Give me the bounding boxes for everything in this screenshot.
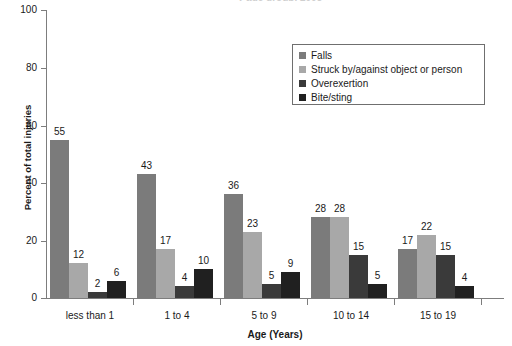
x-tick-2 (307, 299, 308, 305)
y-axis-title: Percent of total injuries (22, 78, 33, 238)
x-tick-label-less-than-1: less than 1 (45, 310, 135, 321)
bar-value-0-3: 6 (102, 268, 132, 278)
bar-value-0-1: 12 (64, 250, 94, 260)
bar-value-1-1: 17 (151, 236, 181, 246)
y-tick-80 (41, 68, 47, 69)
y-tick-40 (41, 183, 47, 184)
x-tick-label-15-to-19: 15 to 19 (393, 310, 483, 321)
legend-label-bite-sting: Bite/sting (311, 92, 352, 103)
legend-label-struck-by: Struck by/against object or person (311, 64, 462, 75)
legend: Falls Struck by/against object or person… (292, 44, 485, 105)
y-tick-label-20: 20 (3, 236, 37, 246)
legend-swatch-struck-by (299, 66, 306, 73)
bar-3-0 (311, 217, 330, 298)
bar-value-1-3: 10 (189, 256, 219, 266)
bar-0-2 (88, 292, 107, 298)
legend-label-overexertion: Overexertion (311, 78, 368, 89)
bar-value-3-1: 28 (325, 204, 355, 214)
x-tick-4 (481, 299, 482, 305)
bar-value-1-0: 43 (132, 161, 162, 171)
y-tick-label-60: 60 (3, 121, 37, 131)
bar-3-3 (368, 284, 387, 298)
bar-3-1 (330, 217, 349, 298)
bar-0-3 (107, 281, 126, 298)
y-tick-label-80: 80 (3, 63, 37, 73)
bar-1-3 (194, 269, 213, 298)
bar-value-2-0: 36 (219, 181, 249, 191)
x-tick-label-10-to-14: 10 to 14 (306, 310, 396, 321)
legend-swatch-falls (299, 52, 306, 59)
legend-item-bite-sting[interactable]: Bite/sting (299, 90, 484, 104)
bar-value-4-2: 15 (431, 242, 461, 252)
legend-label-falls: Falls (311, 50, 332, 61)
y-axis-line (46, 10, 47, 299)
bar-2-2 (262, 284, 281, 298)
y-tick-100 (41, 10, 47, 11)
bar-2-1 (243, 232, 262, 298)
bar-4-3 (455, 286, 474, 298)
bar-chart: y age group, 2003 Percent of total injur… (0, 0, 512, 346)
bar-4-0 (398, 249, 417, 298)
x-tick-label-5-to-9: 5 to 9 (219, 310, 309, 321)
legend-item-struck-by[interactable]: Struck by/against object or person (299, 62, 484, 76)
y-tick-20 (41, 241, 47, 242)
bar-value-2-1: 23 (238, 219, 268, 229)
x-axis-title: Age (Years) (46, 329, 504, 340)
bar-0-0 (50, 140, 69, 298)
y-tick-label-40: 40 (3, 178, 37, 188)
legend-item-overexertion[interactable]: Overexertion (299, 76, 484, 90)
x-tick-3 (394, 299, 395, 305)
bar-value-4-1: 22 (412, 222, 442, 232)
bar-2-0 (224, 194, 243, 298)
bar-value-3-3: 5 (363, 271, 393, 281)
bar-value-2-3: 9 (276, 259, 306, 269)
legend-swatch-overexertion (299, 80, 306, 87)
bar-value-0-0: 55 (45, 127, 75, 137)
x-tick-0 (133, 299, 134, 305)
y-tick-label-0: 0 (3, 293, 37, 303)
x-tick-1 (220, 299, 221, 305)
x-axis-line (46, 298, 504, 299)
bar-2-3 (281, 272, 300, 298)
legend-swatch-bite-sting (299, 94, 306, 101)
y-tick-label-100: 100 (3, 5, 37, 15)
bar-value-4-3: 4 (450, 273, 480, 283)
x-tick-label-1-to-4: 1 to 4 (132, 310, 222, 321)
legend-item-falls[interactable]: Falls (299, 48, 484, 62)
chart-title: y age group, 2003 (60, 0, 500, 1)
bar-1-2 (175, 286, 194, 298)
bar-value-3-2: 15 (344, 242, 374, 252)
